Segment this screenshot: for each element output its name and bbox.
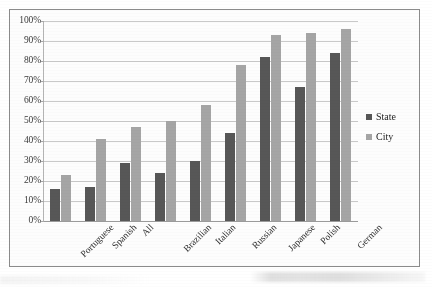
y-axis-tick-label: 50% (11, 116, 41, 126)
bar-group (253, 21, 288, 221)
y-axis-tick-label: 40% (11, 136, 41, 146)
x-axis-label-japanese: Japanese (286, 223, 317, 254)
legend-label: City (376, 132, 393, 142)
gridline (43, 221, 358, 222)
legend-item-city: City (366, 131, 418, 142)
bar-group (113, 21, 148, 221)
bar-group (78, 21, 113, 221)
chart-figure-frame: 100%90%80%70%60%50%40%30%20%10%0% Portug… (9, 9, 420, 267)
y-axis-tick-mark (41, 61, 44, 62)
legend-label: State (376, 112, 396, 122)
bar-city-italian (201, 105, 211, 221)
bar-group (218, 21, 253, 221)
y-axis-tick-label: 100% (11, 16, 41, 26)
y-axis-tick-mark (41, 201, 44, 202)
y-axis-tick-mark (41, 161, 44, 162)
square-swatch-icon (366, 114, 372, 120)
y-axis-tick-mark (41, 41, 44, 42)
x-axis-label-brazilian: Brazilian (182, 223, 213, 254)
bar-group (43, 21, 78, 221)
bar-city-japanese (271, 35, 281, 221)
bar-group (148, 21, 183, 221)
bar-state-polish (295, 87, 305, 221)
y-axis-tick-label: 10% (11, 196, 41, 206)
bar-city-all (131, 127, 141, 221)
bar-state-russian (225, 133, 235, 221)
bar-state-brazilian (155, 173, 165, 221)
bar-group (183, 21, 218, 221)
y-axis-tick-label: 60% (11, 96, 41, 106)
scan-artifact-smudge-left (0, 276, 150, 284)
bar-city-portuguese (61, 175, 71, 221)
y-axis-tick-label: 90% (11, 36, 41, 46)
legend-item-state: State (366, 111, 418, 122)
bar-city-spanish (96, 139, 106, 221)
bar-state-all (120, 163, 130, 221)
y-axis-tick-mark (41, 21, 44, 22)
bar-group (288, 21, 323, 221)
y-axis-tick-mark (41, 181, 44, 182)
y-axis-tick-mark (41, 141, 44, 142)
bar-city-german (341, 29, 351, 221)
x-axis-label-russian: Russian (250, 223, 278, 251)
y-axis-tick-mark (41, 221, 44, 222)
x-axis-label-german: German (355, 223, 383, 251)
bar-state-spanish (85, 187, 95, 221)
y-axis-tick-label: 20% (11, 176, 41, 186)
bar-city-brazilian (166, 121, 176, 221)
y-axis-tick-label: 30% (11, 156, 41, 166)
bar-state-portuguese (50, 189, 60, 221)
x-axis-label-all: All (140, 223, 155, 238)
y-axis-tick-labels: 100%90%80%70%60%50%40%30%20%10%0% (10, 21, 41, 221)
y-axis-tick-mark (41, 101, 44, 102)
x-axis-label-portuguese: Portuguese (79, 223, 116, 260)
bar-state-german (330, 53, 340, 221)
y-axis-tick-mark (41, 81, 44, 82)
y-axis-tick-label: 0% (11, 216, 41, 226)
scan-artifact-smudge (250, 272, 425, 282)
bar-state-japanese (260, 57, 270, 221)
x-axis-label-spanish: Spanish (110, 223, 138, 251)
chart-legend: StateCity (366, 111, 418, 151)
x-axis-category-labels: PortugueseSpanishAllBrazilianItalianRuss… (43, 223, 358, 269)
square-swatch-icon (366, 134, 372, 140)
bar-city-polish (306, 33, 316, 221)
bar-city-russian (236, 65, 246, 221)
plot-area (43, 21, 358, 221)
x-axis-label-polish: Polish (318, 223, 342, 247)
y-axis-tick-label: 80% (11, 56, 41, 66)
bar-group (323, 21, 358, 221)
y-axis-tick-label: 70% (11, 76, 41, 86)
x-axis-label-italian: Italian (214, 223, 238, 247)
y-axis-tick-mark (41, 121, 44, 122)
bar-state-italian (190, 161, 200, 221)
